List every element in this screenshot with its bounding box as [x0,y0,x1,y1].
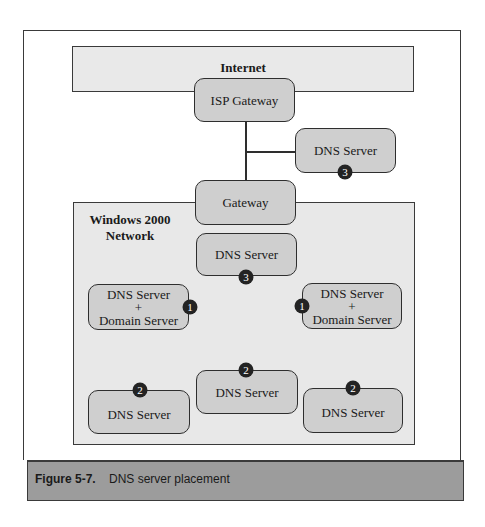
network-label: Windows 2000 Network [80,212,180,244]
internet-label: Internet [72,60,414,76]
domain-server-left-node: DNS Server + Domain Server [88,284,189,330]
gateway-node: Gateway [195,180,296,225]
priority-badge-icon: 1 [295,299,310,314]
connector-to-external-dns [245,151,296,153]
priority-badge-icon: 2 [133,383,148,398]
figure-number: Figure 5-7. [35,472,96,486]
priority-badge-icon: 1 [183,300,198,315]
priority-badge-icon: 3 [239,270,254,285]
priority-badge-icon: 2 [346,381,361,396]
priority-badge-icon: 3 [338,165,353,180]
isp-gateway-node: ISP Gateway [194,78,295,122]
figure-caption: DNS server placement [109,472,230,486]
domain-server-right-node: DNS Server + Domain Server [302,283,402,329]
priority-badge-icon: 2 [239,363,254,378]
